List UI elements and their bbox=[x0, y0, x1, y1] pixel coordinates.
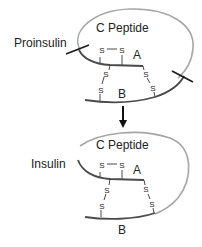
proinsulin-inter2-top-s: S bbox=[143, 70, 148, 79]
proinsulin-c-peptide-loop bbox=[78, 9, 193, 78]
insulin-intra-s2: S bbox=[119, 161, 124, 170]
proinsulin-inter1-bottom-s: S bbox=[98, 86, 103, 95]
proinsulin-chain-b-label: B bbox=[118, 87, 126, 101]
insulin-chain-b-label: B bbox=[118, 223, 126, 237]
down-arrow-icon bbox=[119, 106, 127, 128]
proinsulin-inter1-top-s: S bbox=[103, 70, 108, 79]
proinsulin-intra-s2: S bbox=[119, 46, 124, 55]
insulin-inter1-top-s: S bbox=[104, 186, 109, 195]
insulin-group: S S S S S S Insulin C Peptide A B bbox=[31, 132, 189, 237]
insulin-b-chain bbox=[85, 213, 155, 219]
proinsulin-group: S S S S S S Proinsulin C Peptide A B bbox=[14, 9, 193, 102]
proinsulin-c-peptide-label: C Peptide bbox=[96, 21, 149, 35]
proinsulin-chain-a-label: A bbox=[133, 48, 141, 62]
insulin-diagram: S S S S S S Proinsulin C Peptide A B bbox=[0, 0, 202, 247]
disulfide-bond-line bbox=[148, 194, 150, 199]
insulin-inter2-bottom-s: S bbox=[149, 200, 154, 209]
insulin-c-peptide-label: C Peptide bbox=[96, 138, 149, 152]
insulin-intra-s1: S bbox=[99, 161, 104, 170]
insulin-label: Insulin bbox=[31, 157, 66, 171]
proinsulin-label: Proinsulin bbox=[14, 36, 67, 50]
insulin-chain-a-label: A bbox=[133, 163, 141, 177]
insulin-inter2-top-s: S bbox=[143, 185, 148, 194]
proinsulin-inter2-bottom-s: S bbox=[150, 84, 155, 93]
proinsulin-intra-s1: S bbox=[99, 46, 104, 55]
bond-tick bbox=[109, 179, 110, 185]
proinsulin-left-cut-mark bbox=[66, 45, 89, 54]
insulin-inter1-bottom-s: S bbox=[99, 202, 104, 211]
